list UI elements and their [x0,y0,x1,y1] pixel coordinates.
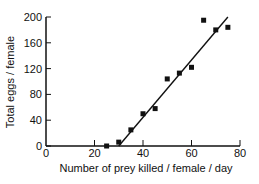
y-tick-label: 80 [30,88,42,100]
data-point [177,71,182,76]
x-tick-label: 40 [137,147,149,159]
y-tick-label: 40 [30,114,42,126]
data-point [201,18,206,23]
x-axis-label: Number of prey killed / female / day [59,162,233,174]
y-tick-label: 160 [24,37,42,49]
fitted-line [119,17,228,146]
chart: 04080120160200020406080 Number of prey k… [0,0,259,184]
data-point [165,76,170,81]
y-tick-label: 120 [24,63,42,75]
x-tick-label: 60 [185,147,197,159]
data-point [213,27,218,32]
axes: 04080120160200020406080 [24,11,246,159]
regression-line [119,17,228,146]
data-point [116,140,121,145]
data-point [189,65,194,70]
data-point [104,144,109,149]
x-tick-label: 80 [234,147,246,159]
y-tick-label: 0 [36,140,42,152]
data-point [153,106,158,111]
data-point [141,111,146,116]
y-tick-label: 200 [24,11,42,23]
x-tick-label: 0 [43,147,49,159]
x-tick-label: 20 [88,147,100,159]
y-axis-label: Total eggs / female [4,36,16,128]
data-point [128,127,133,132]
data-point [225,25,230,30]
